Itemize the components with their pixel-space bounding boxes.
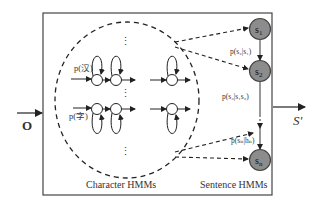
sentence-node-s2: s2 <box>250 61 271 82</box>
transition-label-sn-hn: p(sₙ|hₙ) <box>231 136 255 145</box>
character-hmms-label: Character HMMs <box>86 179 156 190</box>
input-label: O <box>22 118 32 133</box>
ellipsis-top: ⋮ <box>120 35 131 47</box>
state-node <box>92 75 103 86</box>
sentence-node-s1: s1 <box>250 19 271 40</box>
transition-label-s3-s1s2: p(s₃|s₁s₂) <box>222 92 249 101</box>
state-node <box>111 104 122 115</box>
character-hmm-row-1: p(汉) <box>71 56 190 85</box>
state-node <box>92 104 103 115</box>
hmm-diagram: O S' ⋮ ⋮ ⋮ p(汉) p(字) <box>0 0 325 209</box>
output-label: S' <box>293 113 303 128</box>
state-node <box>167 104 178 115</box>
sentence-node-sn: sn <box>250 150 271 171</box>
row-2-prob-label: p(字) <box>69 111 88 121</box>
system-box <box>43 13 272 195</box>
ellipsis-middle: ⋮ <box>120 87 131 99</box>
ellipsis-bottom: ⋮ <box>120 145 131 157</box>
state-node <box>111 75 122 86</box>
character-hmm-row-2: p(字) <box>69 104 190 134</box>
state-node <box>167 75 178 86</box>
sentence-hmms-label: Sentence HMMs <box>200 179 268 190</box>
row-1-prob-label: p(汉) <box>74 63 93 73</box>
transition-label-s2-s1: p(s₂|s₁) <box>230 47 252 56</box>
